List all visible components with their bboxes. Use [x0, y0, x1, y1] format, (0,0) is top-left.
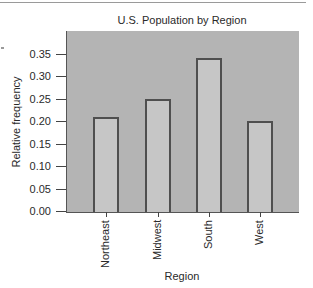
y-tick-label: 0.35 [30, 48, 51, 60]
y-tick [56, 189, 66, 190]
x-tick-label: South [202, 220, 214, 249]
x-tick-label: West [253, 220, 265, 245]
top-rule [0, 2, 306, 3]
bar-south [196, 58, 222, 212]
y-tick-label: 0.30 [30, 70, 51, 82]
x-axis-label: Region [66, 270, 298, 282]
bar-northeast [93, 117, 119, 213]
y-tick-label: 0.15 [30, 138, 51, 150]
y-tick [56, 121, 66, 122]
y-tick-label: 0.10 [30, 160, 51, 172]
bar-midwest [145, 99, 171, 213]
x-tick [209, 212, 210, 217]
y-tick [56, 54, 66, 55]
x-tick-label: Midwest [151, 220, 163, 260]
y-tick [56, 144, 66, 145]
y-tick-label: 0.00 [30, 205, 51, 217]
x-tick-label: Northeast [99, 220, 111, 268]
y-tick [56, 211, 66, 212]
y-tick-label: 0.25 [30, 93, 51, 105]
y-tick [56, 99, 66, 100]
y-tick-label: 0.05 [30, 183, 51, 195]
bar-west [247, 121, 273, 212]
y-tick [56, 76, 66, 77]
x-tick [260, 212, 261, 217]
y-tick [56, 166, 66, 167]
y-tick-label: 0.20 [30, 115, 51, 127]
x-tick [106, 212, 107, 217]
y-axis-label: Relative frequency [10, 76, 22, 167]
edge-mark [1, 47, 4, 49]
chart-title: U.S. Population by Region [66, 14, 298, 26]
x-tick [158, 212, 159, 217]
